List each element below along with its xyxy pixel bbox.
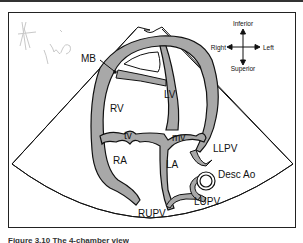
label-lv: LV [164,89,176,100]
label-tv: tv [124,130,132,141]
orientation-compass [227,29,260,65]
label-la: LA [166,159,179,170]
orientation-top-label: Inferior [233,20,254,27]
label-llpv: LLPV [213,143,238,154]
label-desc-ao: Desc Ao [218,169,256,180]
label-mb: MB [81,53,96,64]
label-lupv: LUPV [194,196,220,207]
mb-pointer-head [113,70,117,74]
ventricular-septum [160,46,179,130]
orientation-bottom-label: Superior [231,65,256,73]
heart-diagram: imp Inferior Superior Right Left MB RV L… [0,0,303,243]
figure-caption: Figure 3.10 The 4-chamber view [8,236,129,243]
descending-aorta [197,172,215,190]
orientation-left-label: Right [211,44,226,52]
orientation-right-label: Left [263,44,274,51]
moderator-band [116,70,166,86]
llpv-vessel [190,150,212,166]
label-rv: RV [110,103,124,114]
label-mv: mv [172,132,185,143]
handwriting-scribble [18,22,71,64]
label-ra: RA [113,155,127,166]
label-rupv: RUPV [138,208,166,219]
